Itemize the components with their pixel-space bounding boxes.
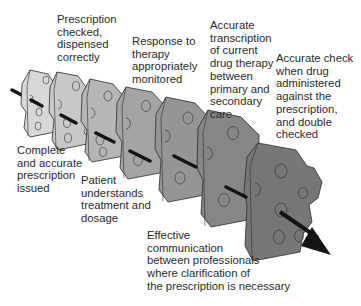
label-complete-prescription: Complete and accurate prescription issue… (17, 144, 82, 195)
label-prescription-checked: Prescription checked, dispensed correctl… (57, 13, 117, 64)
label-accurate-check: Accurate check when drug administered ag… (276, 52, 353, 141)
label-effective-communication: Effective communication between professi… (147, 229, 290, 293)
label-accurate-transcription: Accurate transcription of current drug t… (210, 19, 273, 121)
label-patient-understands: Patient understands treatment and dosage (81, 174, 151, 225)
label-response-monitored: Response to therapy appropriately monito… (132, 35, 197, 86)
